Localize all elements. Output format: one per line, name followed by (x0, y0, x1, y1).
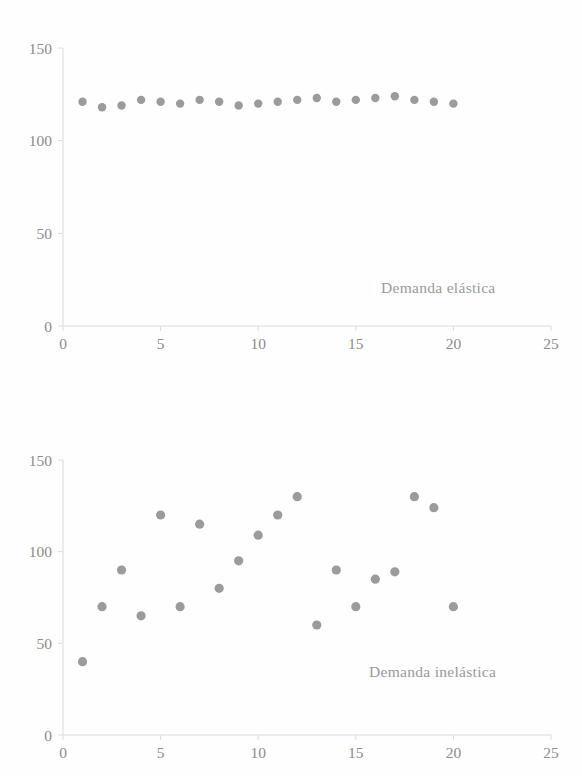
data-point (332, 98, 340, 106)
data-point (254, 99, 262, 107)
scatter-plot-bottom: 0501001500510152025Demanda inelástica (0, 398, 582, 776)
data-point (410, 96, 418, 104)
x-tick-label: 10 (250, 335, 266, 352)
y-tick-label: 150 (29, 40, 53, 57)
y-tick-label: 100 (29, 543, 53, 560)
figure-page: 0501001500510152025Demanda elástica 0501… (0, 0, 582, 776)
x-tick-label: 5 (157, 335, 165, 352)
data-point (390, 567, 399, 576)
data-point (351, 602, 360, 611)
chart-demanda-inelastica: 0501001500510152025Demanda inelástica (0, 398, 582, 776)
x-tick-label: 20 (446, 744, 462, 761)
x-tick-label: 25 (543, 744, 559, 761)
data-point (137, 96, 145, 104)
data-point (352, 96, 360, 104)
data-point (78, 657, 87, 666)
y-tick-label: 0 (44, 318, 52, 335)
data-point (176, 602, 185, 611)
data-point (391, 92, 399, 100)
data-point (98, 103, 106, 111)
data-point (156, 510, 165, 519)
x-tick-label: 10 (250, 744, 266, 761)
x-tick-label: 20 (446, 335, 462, 352)
data-point (449, 602, 458, 611)
data-point (234, 101, 242, 109)
data-point (117, 565, 126, 574)
data-point (449, 99, 457, 107)
scatter-plot-top: 0501001500510152025Demanda elástica (0, 0, 582, 390)
data-point (371, 575, 380, 584)
data-point (429, 503, 438, 512)
chart-demanda-elastica: 0501001500510152025Demanda elástica (0, 0, 582, 390)
data-point (410, 492, 419, 501)
y-tick-label: 150 (29, 452, 53, 469)
data-point (195, 520, 204, 529)
plot-area-bottom: 0501001500510152025Demanda inelástica (0, 398, 582, 776)
data-point (136, 611, 145, 620)
data-point (293, 96, 301, 104)
data-point (332, 565, 341, 574)
data-point (117, 101, 125, 109)
x-tick-label: 5 (157, 744, 165, 761)
data-point (313, 94, 321, 102)
series-annotation-label: Demanda inelástica (369, 663, 496, 680)
data-point (254, 531, 263, 540)
x-tick-label: 0 (59, 744, 67, 761)
data-point (312, 620, 321, 629)
data-point (215, 98, 223, 106)
x-tick-label: 15 (348, 744, 364, 761)
y-tick-label: 0 (44, 727, 52, 744)
x-tick-label: 0 (59, 335, 67, 352)
data-point (430, 98, 438, 106)
data-point (273, 510, 282, 519)
data-point (97, 602, 106, 611)
data-point (371, 94, 379, 102)
x-tick-label: 15 (348, 335, 364, 352)
data-point (234, 556, 243, 565)
data-point (176, 99, 184, 107)
y-tick-label: 100 (29, 132, 53, 149)
y-tick-label: 50 (37, 635, 53, 652)
series-annotation-label: Demanda elástica (381, 279, 496, 296)
data-point (195, 96, 203, 104)
x-tick-label: 25 (543, 335, 559, 352)
y-tick-label: 50 (37, 225, 53, 242)
data-point (293, 492, 302, 501)
data-point (215, 584, 224, 593)
data-point (156, 98, 164, 106)
data-point (274, 98, 282, 106)
data-point (78, 98, 86, 106)
plot-area-top: 0501001500510152025Demanda elástica (0, 0, 582, 390)
